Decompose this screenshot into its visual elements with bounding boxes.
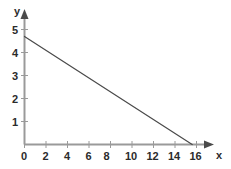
plot-area (0, 0, 231, 169)
y-tick-label: 5 (12, 25, 18, 36)
x-tick-label: 2 (43, 151, 49, 162)
x-tick-label: 14 (168, 151, 180, 162)
x-axis-arrow-icon (204, 141, 214, 149)
y-axis-arrow-icon (21, 9, 29, 19)
x-tick-label: 16 (190, 151, 202, 162)
x-tick-label: 12 (147, 151, 159, 162)
y-tick-label: 2 (12, 94, 18, 105)
data-series-line (25, 36, 193, 144)
x-tick-label: 8 (104, 151, 110, 162)
x-tick-label: 0 (21, 151, 27, 162)
y-tick-label: 3 (12, 71, 18, 82)
x-tick-label: 6 (86, 151, 92, 162)
chart-canvas: y x 0 2 4 6 8 10 12 14 16 1 2 3 4 5 (0, 0, 231, 169)
x-axis-label: x (216, 150, 222, 161)
y-tick-label: 1 (12, 117, 18, 128)
x-tick-label: 10 (125, 151, 137, 162)
y-tick-label: 4 (12, 48, 18, 59)
x-tick-label: 4 (64, 151, 70, 162)
y-axis-label: y (14, 6, 20, 17)
